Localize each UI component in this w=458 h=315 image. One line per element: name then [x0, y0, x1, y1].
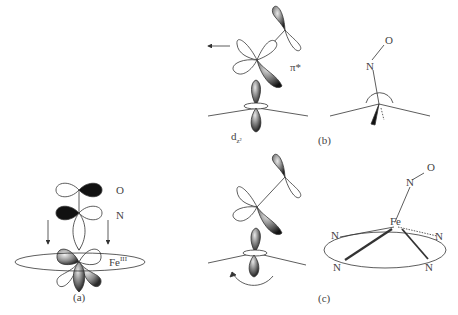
- panel-c-orbitals: [208, 154, 306, 285]
- label-n1: N: [331, 230, 339, 241]
- label-n3: N: [333, 262, 341, 273]
- label-n4: N: [425, 262, 433, 273]
- label-nitrogen-b: N: [366, 61, 374, 72]
- label-n2: N: [435, 231, 443, 242]
- label-iron-c: Fe: [390, 216, 401, 227]
- label-nitrogen-a: N: [116, 210, 124, 221]
- label-oxygen-b: O: [385, 35, 393, 46]
- diagram-canvas: [0, 0, 458, 315]
- caption-b: (b): [318, 135, 331, 146]
- panel-a: [15, 183, 145, 292]
- label-dz2: dz²: [231, 131, 242, 145]
- label-iron-a: FeIII: [109, 256, 127, 268]
- label-oxygen-c: O: [427, 162, 435, 173]
- label-nitrogen-top-c: N: [406, 177, 414, 188]
- panel-c-geometry: [324, 173, 446, 268]
- caption-a: (a): [73, 292, 85, 303]
- panel-b-geometry: [330, 45, 430, 125]
- caption-c: (c): [318, 293, 330, 304]
- label-pi-star: π*: [290, 62, 301, 73]
- label-oxygen-a: O: [116, 185, 124, 196]
